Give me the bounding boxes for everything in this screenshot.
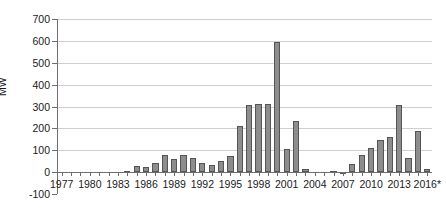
y-axis-tick (52, 172, 57, 173)
y-axis-tick (52, 85, 57, 86)
y-axis-tick (52, 19, 57, 20)
y-axis-tick (52, 63, 57, 64)
y-axis-tick (52, 150, 57, 151)
y-axis-tick (52, 107, 57, 108)
y-axis-tick (52, 128, 57, 129)
y-axis-tick (52, 41, 57, 42)
y-axis-tick (52, 194, 57, 195)
x-axis-tick-label: 2016* (407, 179, 446, 190)
